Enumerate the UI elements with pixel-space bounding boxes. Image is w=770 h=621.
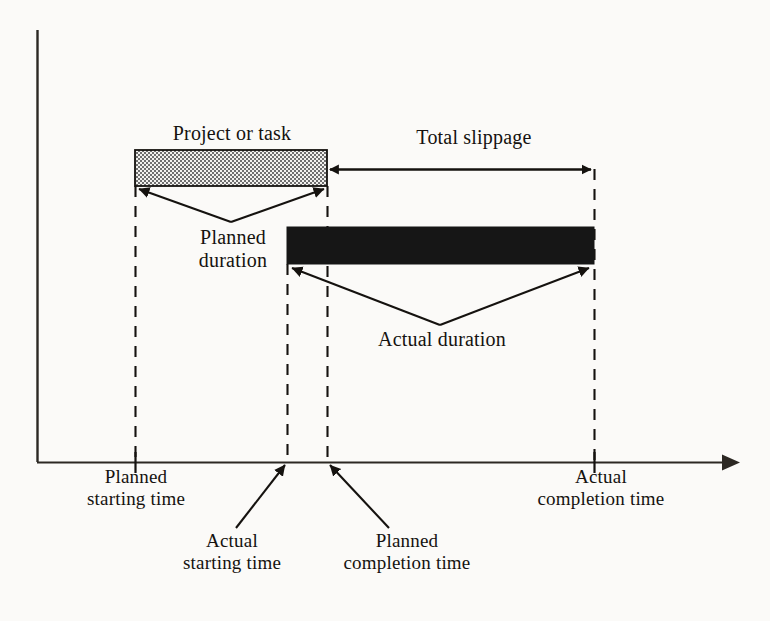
time-marker-leaders xyxy=(236,465,389,528)
actual-duration-bar xyxy=(287,227,594,264)
label-actual-duration: Actual duration xyxy=(358,328,526,351)
label-planned-duration: Planned duration xyxy=(163,226,303,272)
label-project-or-task: Project or task xyxy=(139,122,325,145)
planned-duration-leaders xyxy=(139,189,324,222)
actual-duration-leader-right xyxy=(440,268,589,325)
label-planned-starting-time: Planned starting time xyxy=(60,466,212,509)
planned-completion-time-leader xyxy=(330,465,389,528)
planned-duration-leader-left xyxy=(139,189,231,222)
actual-duration-leader-left xyxy=(292,268,440,325)
actual-duration-leaders xyxy=(292,268,589,325)
x-axis-arrowhead xyxy=(722,455,740,471)
label-planned-completion-time: Planned completion time xyxy=(312,530,502,573)
label-total-slippage: Total slippage xyxy=(384,126,564,149)
planned-duration-leader-right xyxy=(231,189,324,222)
slippage-diagram-artwork xyxy=(0,0,770,621)
label-actual-completion-time: Actual completion time xyxy=(508,466,694,509)
actual-starting-time-leader xyxy=(236,465,285,528)
planned-duration-bar xyxy=(135,150,327,186)
figure-page: Project or task Total slippage Planned d… xyxy=(0,0,770,621)
label-actual-starting-time: Actual starting time xyxy=(156,530,308,573)
